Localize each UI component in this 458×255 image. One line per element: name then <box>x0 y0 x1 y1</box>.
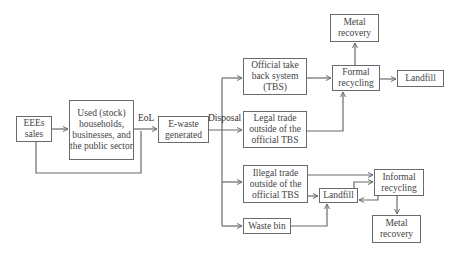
node-informal-recycling: Informal recycling <box>374 169 424 196</box>
node-label: Landfill <box>323 190 354 201</box>
node-eees-sales: EEEs sales <box>16 116 52 142</box>
node-used-stock: Used (stock) households, businesses, and… <box>69 100 134 160</box>
node-formal-recycling: Formal recycling <box>332 65 380 91</box>
node-label: Waste bin <box>248 221 286 232</box>
edge-label-disposal: Disposal <box>208 113 241 123</box>
node-label: Landfill <box>405 73 436 84</box>
node-official-tbs: Official take back system (TBS) <box>243 58 307 95</box>
arrow-informal-to-landfill <box>359 196 378 200</box>
node-label: Used (stock) households, businesses, and… <box>70 108 133 152</box>
node-legal-trade: Legal trade outside of the official TBS <box>243 111 307 148</box>
node-label: Metal recovery <box>331 17 378 39</box>
arrow-legal-to-formal <box>307 92 343 131</box>
node-ewaste-generated: E-waste generated <box>158 116 209 143</box>
node-metal-recovery-top: Metal recovery <box>330 14 379 42</box>
node-label: Formal recycling <box>333 67 379 89</box>
node-landfill-mid: Landfill <box>319 188 358 203</box>
edge-label-eol: EoL <box>138 113 154 123</box>
arrow-wastebin-to-landfill <box>291 204 327 226</box>
node-label: Metal recovery <box>373 218 420 240</box>
node-label: EEEs sales <box>17 118 51 140</box>
node-landfill-top: Landfill <box>397 70 444 87</box>
node-label: Informal recycling <box>375 172 423 194</box>
node-label: Official take back system (TBS) <box>244 60 306 93</box>
node-label: E-waste generated <box>159 119 208 141</box>
node-illegal-trade: Illegal trade outside of the official TB… <box>243 165 308 203</box>
node-metal-recovery-bottom: Metal recovery <box>372 215 421 243</box>
node-label: Illegal trade outside of the official TB… <box>244 168 307 201</box>
node-label: Legal trade outside of the official TBS <box>244 113 306 146</box>
node-waste-bin: Waste bin <box>243 218 291 234</box>
